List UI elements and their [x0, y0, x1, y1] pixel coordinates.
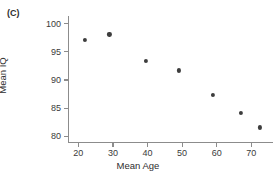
y-axis-title: Mean IQ	[0, 57, 8, 93]
data-point	[144, 59, 148, 63]
x-axis-tick-label: 50	[177, 148, 187, 158]
data-point	[258, 125, 262, 129]
y-axis-tick-label: 80	[51, 131, 61, 141]
data-point	[83, 38, 87, 42]
x-axis-tick-label: 60	[212, 148, 222, 158]
x-axis-tick-label: 20	[73, 148, 83, 158]
y-axis-tick-labels: 80859095100	[0, 0, 61, 176]
x-axis-tick-label: 30	[108, 148, 118, 158]
x-axis-tick	[216, 143, 217, 148]
y-axis-tick-label: 85	[51, 103, 61, 113]
x-axis-tick	[251, 143, 252, 148]
x-axis-title: Mean Age	[0, 160, 276, 171]
data-point	[239, 111, 243, 115]
y-axis-tick-label: 95	[51, 47, 61, 57]
data-point	[177, 68, 181, 72]
x-axis-tick	[112, 143, 113, 148]
y-axis-tick-label: 90	[51, 75, 61, 85]
y-axis-tick-label: 100	[46, 19, 61, 29]
x-axis-tick-label: 70	[246, 148, 256, 158]
data-point	[211, 93, 215, 97]
data-point	[107, 32, 111, 36]
x-axis-tick	[182, 143, 183, 148]
x-axis-tick	[78, 143, 79, 148]
x-axis-tick-label: 40	[143, 148, 153, 158]
x-axis-tick	[147, 143, 148, 148]
scatter-plot-figure: (C) 80859095100 203040506070 Mean IQ Mea…	[0, 0, 276, 176]
plot-area	[68, 18, 272, 142]
